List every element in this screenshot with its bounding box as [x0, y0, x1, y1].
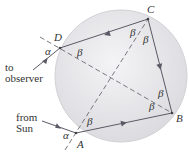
- arrow-icon: [55, 123, 62, 130]
- point-c: [147, 18, 150, 21]
- point-d: [59, 47, 62, 50]
- label-a: A: [76, 138, 84, 150]
- angle-beta-a: β: [86, 115, 93, 127]
- from-sun-label-2: Sun: [16, 122, 34, 134]
- angle-beta-c1: β: [129, 26, 136, 38]
- label-c: C: [147, 3, 155, 15]
- label-d: D: [53, 31, 62, 43]
- angle-alpha-d: α: [45, 45, 51, 57]
- point-b: [171, 112, 174, 115]
- label-b: B: [176, 112, 183, 124]
- arrow-icon: [42, 58, 49, 65]
- angle-alpha-a: α: [63, 129, 69, 141]
- angle-beta-b1: β: [157, 87, 164, 99]
- to-observer-label-2: observer: [5, 72, 43, 84]
- point-a: [75, 132, 78, 135]
- rainbow-diagram: C D B A α β β β β β β α to observer from…: [0, 0, 189, 152]
- angle-beta-b2: β: [148, 100, 155, 112]
- angle-beta-d: β: [76, 46, 83, 58]
- angle-beta-c2: β: [142, 33, 149, 45]
